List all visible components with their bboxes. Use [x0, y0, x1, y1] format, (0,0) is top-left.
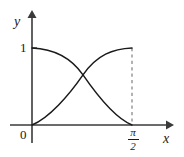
y-axis-arrow-icon: [28, 10, 37, 18]
origin-label: 0: [20, 128, 27, 141]
y-axis-label: y: [14, 15, 20, 29]
fraction-denominator: 2: [125, 141, 141, 153]
plot-canvas: [0, 0, 184, 157]
x-axis-label: x: [163, 132, 169, 146]
x-axis-arrow-icon: [166, 121, 174, 130]
sine-curve: [32, 48, 132, 125]
math-figure: y x 0 1 π 2: [0, 0, 184, 157]
x-axis: [10, 121, 174, 130]
y-tick-label-1: 1: [20, 41, 27, 54]
x-tick-label-pi-over-2: π 2: [125, 127, 141, 153]
cosine-curve: [32, 48, 132, 125]
fraction-numerator: π: [125, 127, 141, 139]
